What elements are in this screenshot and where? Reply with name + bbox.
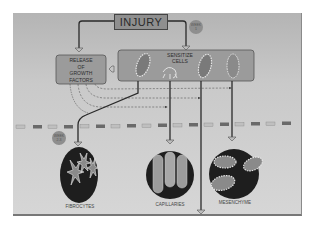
arrow-down-icon — [197, 210, 205, 214]
mesenchyme-caption: MESENCHYME — [210, 200, 260, 205]
cell-icon — [227, 54, 239, 78]
sensitize-cells-node: SENSITIZE CELLS — [160, 52, 200, 64]
arrow-down-icon — [228, 137, 236, 141]
arrow-left-icon — [109, 66, 114, 72]
mesenchyme-illustration — [209, 149, 265, 199]
arrow-down-icon — [74, 142, 82, 146]
injury-to-sensitize-line — [167, 21, 186, 46]
diagram-graphics — [0, 0, 310, 225]
fibrocytes-caption: FIBROCYTES — [55, 204, 105, 209]
arrow-down-icon — [182, 46, 190, 50]
arrow-down-icon — [75, 48, 83, 52]
sensitize-line-2: CELLS — [160, 58, 200, 64]
signal-curve — [95, 84, 231, 89]
fibrocytes-illustration — [60, 147, 98, 203]
week-1-badge-label: WEEK 1 — [190, 23, 202, 31]
week-2-3-badge-label: WEEK 2-3 — [53, 134, 65, 142]
path-to-fibrocytes — [78, 81, 138, 142]
capillaries-illustration — [146, 151, 194, 199]
injury-to-release-line — [79, 21, 114, 48]
signal-curve — [86, 84, 200, 98]
release-line-4: FACTORS — [56, 77, 106, 84]
arrow-down-icon — [166, 140, 174, 144]
release-growth-factors-node: RELEASE OF GROWTH FACTORS — [56, 56, 106, 83]
signal-curve — [78, 84, 167, 107]
phase-divider-band — [16, 122, 291, 129]
capillaries-caption: CAPILLARIES — [145, 202, 195, 207]
signal-curve — [70, 84, 88, 113]
injury-label: INJURY — [120, 16, 163, 28]
injury-node: INJURY — [114, 14, 168, 30]
